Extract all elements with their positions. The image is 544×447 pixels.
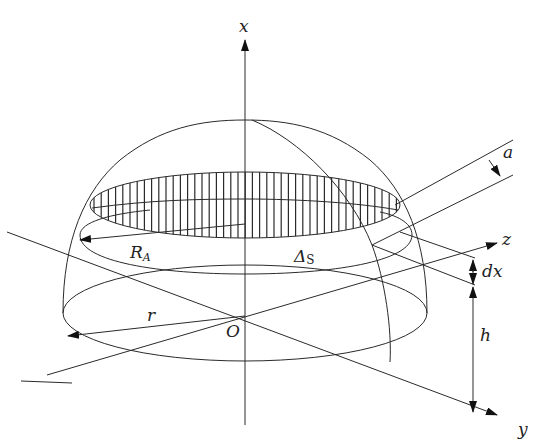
dx-ref-upper (400, 232, 475, 258)
radius-r-arrow (68, 316, 245, 336)
hemisphere-diagram: x z y O r RA ΔS dx h a (0, 0, 544, 447)
z-axis (47, 243, 497, 375)
meridian-arc (252, 120, 390, 362)
base-radius-label: r (147, 305, 156, 325)
section-radius-label: RA (129, 242, 151, 264)
a-dimension-arrow (489, 160, 500, 176)
origin-label: O (226, 321, 240, 341)
z-axis-label: z (501, 229, 512, 249)
hatched-section (90, 170, 400, 240)
h-label: h (480, 325, 491, 345)
a-label: a (503, 142, 513, 162)
dx-ref-lower (372, 245, 475, 285)
x-axis-label: x (239, 16, 249, 36)
y-axis (7, 232, 497, 415)
lower-ring-back-right (380, 212, 412, 235)
delta-s-label: ΔS (293, 246, 315, 267)
stray-mark (21, 381, 72, 383)
dx-label: dx (482, 261, 503, 281)
plane-line-upper (395, 140, 513, 205)
y-axis-label: y (517, 419, 528, 439)
